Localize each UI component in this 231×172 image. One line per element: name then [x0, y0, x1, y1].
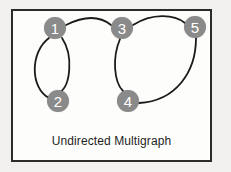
- graph-edge: [66, 18, 111, 25]
- graph-edge: [115, 39, 123, 91]
- graph-edge: [35, 38, 49, 98]
- graph-node-3: 3: [111, 17, 133, 39]
- graph-node-2: 2: [47, 90, 69, 112]
- graph-edge: [139, 38, 196, 103]
- graph-node-1: 1: [44, 17, 66, 39]
- figure-root: 12345 Undirected Multigraph: [0, 0, 231, 172]
- figure-caption: Undirected Multigraph: [11, 134, 212, 148]
- graph-edge: [133, 16, 185, 25]
- graph-node-5: 5: [184, 16, 206, 38]
- graph-node-4: 4: [117, 90, 139, 112]
- graph-edge: [60, 38, 69, 92]
